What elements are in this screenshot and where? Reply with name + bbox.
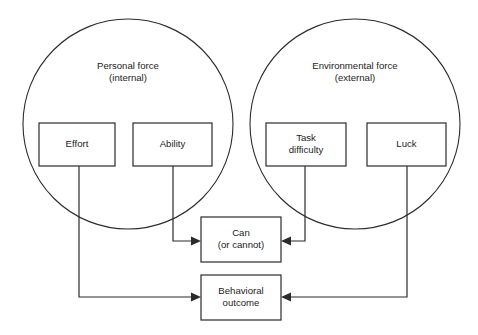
arrowhead-effort-to-behavioral-outcome: [191, 293, 201, 302]
arrowhead-ability-to-can: [191, 237, 201, 246]
attribution-theory-diagram: Personal force (internal) Environmental …: [0, 0, 478, 335]
connector-task-difficulty-to-can: [285, 166, 305, 241]
arrowhead-luck-to-behavioral-outcome: [281, 293, 291, 302]
box-label-effort: Effort: [39, 138, 115, 150]
connector-effort-to-behavioral-outcome: [79, 166, 197, 297]
box-label-task-difficulty: Task difficulty: [266, 132, 346, 155]
group-label-environmental-force: Environmental force (external): [275, 60, 435, 83]
arrowhead-task-difficulty-to-can: [281, 237, 291, 246]
connector-luck-to-behavioral-outcome: [285, 166, 407, 297]
box-label-can-or-cannot: Can (or cannot): [201, 227, 281, 250]
group-label-personal-force: Personal force (internal): [48, 60, 208, 83]
connector-ability-to-can: [173, 166, 197, 241]
box-label-behavioral-outcome: Behavioral outcome: [201, 285, 281, 308]
box-label-luck: Luck: [367, 138, 446, 150]
box-label-ability: Ability: [133, 138, 212, 150]
